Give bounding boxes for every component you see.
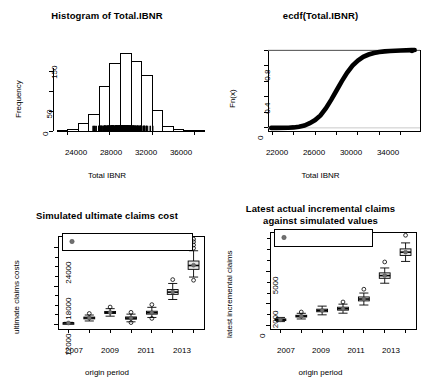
incremental-claims-box [400, 233, 411, 261]
ultimate-claims-box [167, 278, 178, 300]
histogram-bar [152, 111, 163, 131]
incremental-claims-box [358, 287, 369, 305]
ultimate-claims-box [126, 310, 137, 324]
panel-incremental-claims: Latest actual incremental claims against… [214, 196, 427, 391]
ecdf-curve [271, 50, 414, 128]
incremental-claims-box [317, 306, 328, 315]
ultimate-claims-box [84, 312, 95, 321]
plot-grid: Histogram of Total.IBNR Frequency Total … [0, 0, 427, 391]
ultimate-claims-legend-marker [70, 239, 74, 243]
histogram-bar [131, 61, 142, 131]
histogram-bar [142, 76, 153, 131]
incremental-claims-box [275, 317, 286, 321]
incremental-claims-box [338, 300, 349, 313]
ecdf-endpoint-marker [410, 49, 414, 53]
ecdf-canvas [214, 0, 427, 196]
panel-ecdf: ecdf(Total.IBNR) Fn(x) Total IBNR 0 0.4 … [214, 0, 427, 196]
panel-histogram: Histogram of Total.IBNR Frequency Total … [0, 0, 214, 196]
incremental-claims-plot-frame [270, 232, 416, 329]
incremental-claims-legend-marker [282, 235, 286, 239]
ultimate-claims-box [146, 303, 157, 321]
ultimate-claims-box [63, 321, 74, 325]
panel-ultimate-claims: Simulated ultimate claims cost ultimate … [0, 196, 214, 391]
incremental-claims-box [296, 310, 307, 319]
histogram-bar [110, 63, 121, 131]
histogram-bar [163, 126, 174, 131]
incremental-claims-legend-box [274, 229, 372, 246]
ecdf-plot-frame [268, 50, 420, 131]
histogram-bar [78, 124, 89, 131]
histogram-bar [121, 53, 132, 131]
incremental-claims-box [379, 260, 390, 283]
incremental-claims-canvas [214, 196, 427, 391]
ultimate-claims-legend-box [62, 233, 192, 250]
ultimate-claims-box [105, 305, 116, 316]
ultimate-claims-canvas [0, 196, 214, 391]
histogram-canvas [0, 0, 214, 196]
histogram-rug [93, 126, 153, 131]
histogram-bar [99, 87, 110, 131]
